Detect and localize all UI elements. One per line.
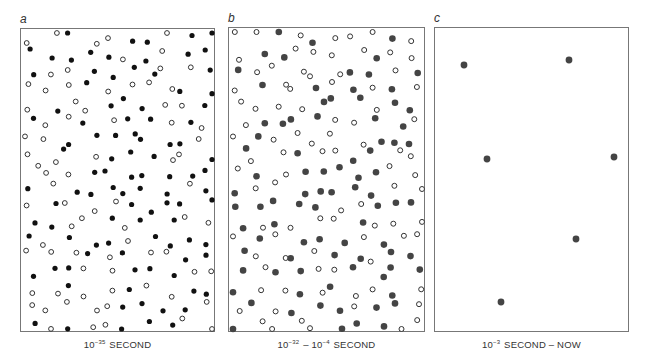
matter-particle-dot	[232, 203, 239, 210]
matter-particle-dot	[120, 305, 125, 310]
matter-particle-dot	[341, 240, 348, 247]
antimatter-particle-circle	[232, 30, 237, 35]
antimatter-particle-circle	[414, 85, 419, 90]
matter-particle-dot	[52, 266, 57, 271]
antimatter-particle-circle	[271, 137, 276, 142]
matter-particle-dot	[294, 150, 301, 157]
matter-particle-dot	[241, 247, 248, 254]
panel-c-particle-box	[434, 27, 629, 332]
antimatter-particle-circle	[393, 68, 398, 73]
antimatter-particle-circle	[387, 164, 392, 169]
antimatter-particle-circle	[121, 57, 126, 62]
caption-exponent: −35	[95, 339, 106, 345]
antimatter-particle-circle	[372, 223, 377, 228]
antimatter-particle-circle	[273, 180, 278, 185]
matter-particle-dot	[129, 202, 134, 207]
antimatter-particle-circle	[44, 171, 49, 176]
matter-particle-dot	[31, 72, 36, 77]
matter-particle-dot	[65, 326, 70, 331]
antimatter-particle-circle	[392, 183, 397, 188]
matter-particle-dot	[202, 103, 207, 108]
matter-particle-dot	[231, 190, 238, 197]
matter-particle-dot	[316, 236, 323, 243]
antimatter-particle-circle	[163, 103, 168, 108]
antimatter-particle-circle	[352, 120, 357, 125]
matter-particle-dot	[367, 147, 374, 154]
matter-particle-dot	[352, 184, 359, 191]
antimatter-particle-circle	[368, 259, 373, 264]
matter-particle-dot	[375, 203, 382, 210]
matter-particle-dot	[276, 29, 283, 36]
matter-particle-dot	[328, 189, 335, 196]
matter-particle-dot	[368, 192, 375, 199]
antimatter-particle-circle	[327, 131, 332, 136]
matter-particle-dot	[414, 70, 421, 77]
antimatter-particle-circle	[333, 36, 338, 41]
antimatter-particle-circle	[370, 30, 375, 35]
matter-particle-dot	[31, 116, 36, 121]
antimatter-particle-circle	[81, 294, 86, 299]
panel-b-caption: 10−32 – 10−4 SECOND	[228, 339, 425, 350]
antimatter-particle-circle	[413, 173, 418, 178]
antimatter-particle-circle	[147, 80, 152, 85]
matter-particle-dot	[255, 133, 262, 140]
matter-particle-dot	[160, 308, 165, 313]
matter-particle-dot	[313, 85, 320, 92]
matter-particle-dot	[187, 237, 192, 242]
matter-particle-dot	[25, 186, 30, 191]
matter-particle-dot	[61, 147, 66, 152]
matter-particle-dot	[92, 170, 97, 175]
matter-particle-dot	[152, 72, 157, 77]
matter-particle-dot	[88, 50, 93, 55]
matter-particle-dot	[389, 35, 396, 42]
matter-particle-dot	[484, 156, 491, 163]
matter-particle-dot	[33, 321, 38, 326]
matter-particle-dot	[165, 191, 170, 196]
matter-particle-dot	[312, 204, 319, 211]
matter-particle-dot	[357, 94, 364, 101]
matter-particle-dot	[172, 273, 177, 278]
matter-particle-dot	[167, 174, 172, 179]
matter-particle-dot	[381, 241, 388, 248]
antimatter-particle-circle	[409, 56, 414, 61]
matter-particle-dot	[235, 67, 242, 74]
antimatter-particle-circle	[26, 82, 31, 87]
matter-particle-dot	[203, 242, 208, 247]
antimatter-particle-circle	[110, 288, 115, 293]
antimatter-particle-circle	[30, 291, 35, 296]
matter-particle-dot	[94, 243, 99, 248]
matter-particle-dot	[177, 89, 182, 94]
antimatter-particle-circle	[254, 30, 259, 35]
antimatter-particle-circle	[69, 224, 74, 229]
caption-dash: – 10	[300, 339, 322, 350]
antimatter-particle-circle	[283, 288, 288, 293]
antimatter-particle-circle	[353, 294, 358, 299]
matter-particle-dot	[49, 225, 54, 230]
panel-b-letter: b	[228, 11, 235, 25]
matter-particle-dot	[84, 80, 89, 85]
antimatter-particle-circle	[160, 49, 165, 54]
matter-particle-dot	[149, 210, 154, 215]
matter-particle-dot	[168, 142, 173, 147]
antimatter-particle-circle	[388, 50, 393, 55]
antimatter-particle-circle	[165, 31, 170, 36]
antimatter-particle-circle	[417, 302, 422, 307]
panel-a-letter: a	[20, 12, 27, 26]
matter-particle-dot	[327, 283, 334, 290]
matter-particle-dot	[317, 188, 324, 195]
matter-particle-dot	[248, 300, 255, 307]
antimatter-particle-circle	[182, 215, 187, 220]
matter-particle-dot	[177, 201, 182, 206]
antimatter-particle-circle	[199, 126, 204, 131]
matter-particle-dot	[138, 137, 143, 142]
matter-particle-dot	[287, 255, 294, 262]
matter-particle-dot	[380, 274, 387, 281]
matter-particle-dot	[355, 175, 362, 182]
matter-particle-dot	[111, 75, 116, 80]
matter-particle-dot	[147, 319, 152, 324]
antimatter-particle-circle	[110, 268, 115, 273]
matter-particle-dot	[109, 103, 114, 108]
matter-particle-dot	[102, 168, 107, 173]
antimatter-particle-circle	[329, 53, 334, 58]
matter-particle-dot	[373, 169, 380, 176]
